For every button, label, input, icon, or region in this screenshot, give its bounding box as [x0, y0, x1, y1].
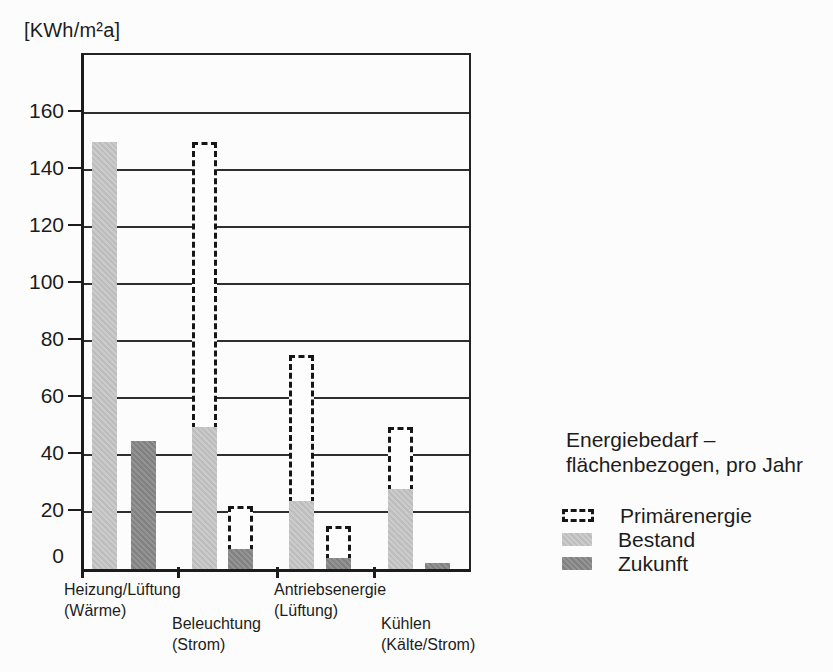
gridline-100 [84, 283, 469, 285]
y-axis-tick-mark-140 [68, 167, 81, 169]
bestand-bar-group1 [92, 142, 117, 570]
y-axis-tick-label-160: 160 [18, 100, 64, 122]
scanned-bar-chart-figure: [KWh/m²a] 020406080100120140160 Energieb… [0, 0, 833, 672]
x-category-label-3: Antriebsenergie(Lüftung) [274, 579, 386, 621]
zukunft-bar-group4 [425, 563, 450, 569]
y-axis-tick-mark-100 [68, 281, 81, 283]
y-axis-tick-label-20: 20 [18, 499, 64, 521]
zukunft-swatch [562, 557, 592, 570]
gridline-120 [84, 226, 469, 228]
gridline-160 [84, 112, 469, 114]
x-category-label-2-line2: (Strom) [172, 634, 261, 655]
x-category-label-1: Heizung/Lüftung(Wärme) [64, 579, 181, 621]
x-category-label-2: Beleuchtung(Strom) [172, 613, 261, 655]
y-axis-tick-mark-40 [68, 452, 81, 454]
zukunft-bar-group1 [131, 441, 156, 569]
legend-title-line1: Energiebedarf – [566, 427, 803, 452]
gridline-80 [84, 340, 469, 342]
x-axis-tick-mark-1 [177, 567, 180, 578]
x-category-label-2-line1: Beleuchtung [172, 613, 261, 634]
gridline-60 [84, 397, 469, 399]
legend-title: Energiebedarf – flächenbezogen, pro Jahr [566, 427, 803, 477]
primaerenergie-outline-group4-bestand-bar [388, 427, 413, 492]
primaerenergie-outline-group2-zukunft-bar [228, 506, 253, 551]
y-axis-tick-label-0: 0 [18, 545, 64, 567]
y-axis-tick-mark-60 [68, 395, 81, 397]
plot-area [81, 53, 471, 572]
y-axis-tick-label-60: 60 [18, 385, 64, 407]
y-axis-tick-mark-20 [68, 509, 81, 511]
x-category-label-4-line1: Kühlen [381, 613, 475, 634]
bestand-swatch [562, 533, 592, 546]
y-axis-tick-label-40: 40 [18, 442, 64, 464]
x-axis-tick-mark-2 [276, 567, 279, 578]
y-axis-tick-mark-160 [68, 110, 81, 112]
x-category-label-4-line2: (Kälte/Strom) [381, 634, 475, 655]
legend-title-line2: flächenbezogen, pro Jahr [566, 452, 803, 477]
primaerenergie-dashed-swatch [562, 509, 594, 522]
y-axis-tick-label-120: 120 [18, 214, 64, 236]
x-category-label-3-line1: Antriebsenergie [274, 579, 386, 600]
legend-item-bestand: Bestand [562, 527, 695, 552]
zukunft-bar-group2 [228, 549, 253, 569]
x-category-label-1-line1: Heizung/Lüftung [64, 579, 181, 600]
y-axis-tick-label-100: 100 [18, 271, 64, 293]
legend-label-primaerenergie: Primärenergie [620, 504, 752, 528]
primaerenergie-outline-group2-bestand-bar [192, 142, 217, 429]
bestand-bar-group4 [388, 489, 413, 569]
y-axis-unit-label: [KWh/m²a] [24, 19, 120, 42]
x-axis-tick-mark-3 [373, 567, 376, 578]
bestand-bar-group2 [192, 427, 217, 570]
gridline-140 [84, 169, 469, 171]
bestand-bar-group3 [289, 501, 314, 569]
y-axis-tick-mark-80 [68, 338, 81, 340]
legend-item-zukunft: Zukunft [562, 551, 688, 576]
y-axis-tick-label-140: 140 [18, 157, 64, 179]
legend-label-zukunft: Zukunft [618, 552, 688, 576]
primaerenergie-outline-group3-bestand-bar [289, 355, 314, 502]
primaerenergie-outline-group3-zukunft-bar [326, 526, 351, 559]
x-axis-tick-mark-0 [81, 567, 84, 578]
zukunft-bar-group3 [326, 558, 351, 569]
legend-label-bestand: Bestand [618, 528, 695, 552]
legend-item-primaerenergie: Primärenergie [562, 503, 752, 528]
x-category-label-1-line2: (Wärme) [64, 600, 181, 621]
y-axis-tick-label-80: 80 [18, 328, 64, 350]
y-axis-tick-mark-120 [68, 224, 81, 226]
x-category-label-3-line2: (Lüftung) [274, 600, 386, 621]
x-category-label-4: Kühlen(Kälte/Strom) [381, 613, 475, 655]
